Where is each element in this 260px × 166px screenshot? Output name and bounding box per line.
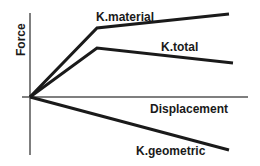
curve-k-total bbox=[30, 48, 233, 97]
y-axis-label: Force bbox=[15, 23, 27, 56]
x-axis-label: Displacement bbox=[150, 103, 228, 115]
diagram-canvas bbox=[0, 0, 260, 166]
label-k-total: K.total bbox=[161, 41, 198, 53]
label-k-geometric: K.geometric bbox=[136, 145, 205, 157]
label-k-material: K.material bbox=[96, 11, 154, 23]
curve-k-material bbox=[30, 14, 229, 97]
